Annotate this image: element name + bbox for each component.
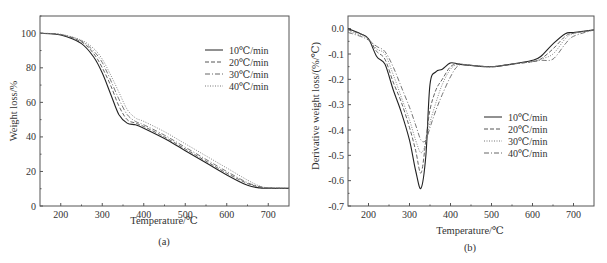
y-tick-label: 0 [31, 201, 36, 212]
panel-b-legend: 10℃/min20℃/min30℃/min40℃/min [484, 112, 548, 159]
panel-a-weight-loss-chart: 200300400500600700 020406080100 10℃/min2… [8, 16, 289, 248]
y-tick-label: 80 [26, 62, 36, 73]
x-tick-label: 400 [443, 209, 458, 220]
legend-label: 10℃/min [508, 112, 548, 123]
panel-b-caption: (b) [464, 242, 477, 254]
x-tick-label: 700 [261, 209, 276, 220]
legend-label: 20℃/min [229, 57, 269, 68]
panel-b-x-axis-title: Temperature/℃ [436, 225, 504, 236]
y-tick-label: 0.0 [332, 23, 345, 34]
series-line-40c-per-min [348, 30, 594, 142]
y-tick-label: -0.3 [328, 99, 344, 110]
x-tick-label: 200 [53, 209, 68, 220]
figure-canvas: 200300400500600700 020406080100 10℃/min2… [0, 0, 607, 263]
panel-b-y-axis-title: Derivative weight loss/(%/℃) [310, 42, 322, 170]
series-line-30c-per-min [348, 30, 594, 153]
legend-label: 40℃/min [229, 81, 269, 92]
y-tick-label: 100 [21, 28, 36, 39]
legend-label: 30℃/min [229, 69, 269, 80]
x-tick-label: 600 [525, 209, 540, 220]
x-tick-label: 300 [95, 209, 110, 220]
y-tick-label: -0.6 [328, 175, 344, 186]
legend-label: 20℃/min [508, 124, 548, 135]
y-tick-label: -0.4 [328, 125, 344, 136]
y-tick-label: 40 [26, 131, 36, 142]
legend-label: 10℃/min [229, 45, 269, 56]
y-tick-label: -0.7 [328, 201, 344, 212]
figure: 200300400500600700 020406080100 10℃/min2… [0, 0, 607, 263]
y-tick-label: 60 [26, 97, 36, 108]
panel-b-derivative-chart: 200300400500600700 0.0-0.1-0.2-0.3-0.4-0… [310, 16, 594, 254]
y-tick-label: 20 [26, 166, 36, 177]
y-tick-label: -0.5 [328, 150, 344, 161]
panel-b-series [348, 29, 594, 189]
y-tick-label: -0.2 [328, 74, 344, 85]
panel-a-caption: (a) [158, 236, 170, 248]
legend-label: 30℃/min [508, 136, 548, 147]
x-tick-label: 300 [402, 209, 417, 220]
x-tick-label: 600 [219, 209, 234, 220]
panel-a-y-axis-title: Weight loss/% [8, 80, 19, 141]
series-line-10c-per-min [348, 29, 594, 189]
legend-label: 40℃/min [508, 148, 548, 159]
panel-a-x-axis-title: Temperature/℃ [130, 215, 198, 226]
panel-a-legend: 10℃/min20℃/min30℃/min40℃/min [205, 45, 269, 92]
panel-b-plot-frame [348, 16, 594, 206]
y-tick-label: -0.1 [328, 49, 344, 60]
x-tick-label: 700 [566, 209, 581, 220]
x-tick-label: 200 [361, 209, 376, 220]
x-tick-label: 500 [484, 209, 499, 220]
